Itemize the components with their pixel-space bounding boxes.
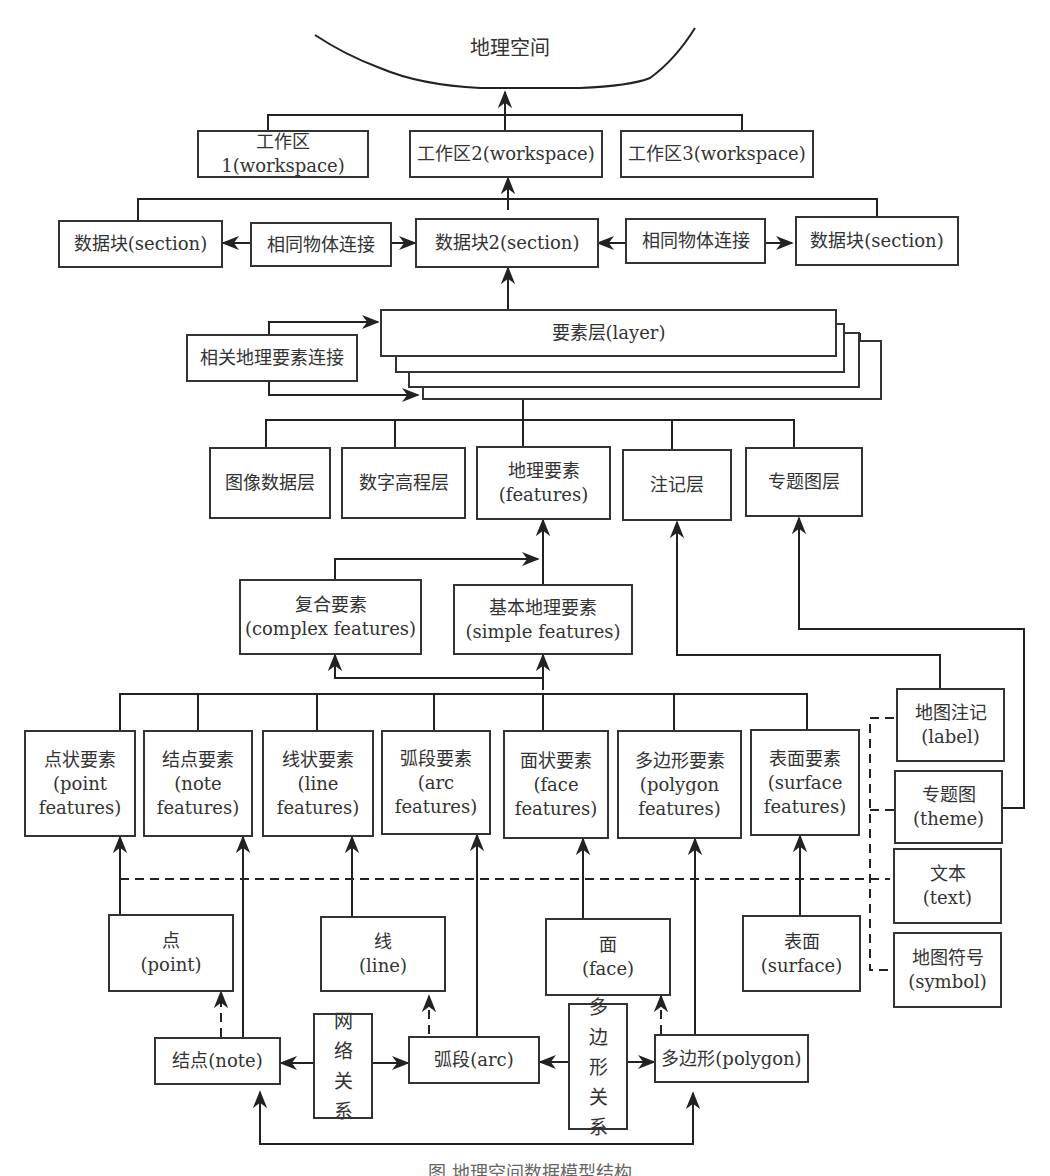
arc-features-cn: 弧段要素 (400, 747, 472, 771)
simple-features-label-cn: 基本地理要素 (489, 596, 597, 620)
workspace-2-label: 工作区2(workspace) (417, 142, 594, 166)
network-relation-char-2: 络 (334, 1036, 353, 1066)
polygon-relation-char-3: 形 (589, 1052, 608, 1082)
complex-features-box[interactable]: 复合要素 (complex features) (239, 579, 422, 655)
section-right-box[interactable]: 数据块(section) (795, 216, 959, 266)
network-relation-char-3: 关 (334, 1066, 353, 1096)
map-label-box[interactable]: 地图注记 (label) (896, 688, 1005, 762)
layer-box[interactable]: 要素层(layer) (380, 309, 837, 357)
section-left-label: 数据块(section) (74, 232, 207, 256)
map-symbol-box[interactable]: 地图符号 (symbol) (893, 932, 1002, 1008)
face-features-box[interactable]: 面状要素 (face features) (503, 730, 609, 839)
polygon-box[interactable]: 多边形(polygon) (654, 1034, 809, 1083)
text-en: (text) (923, 886, 972, 910)
face-features-cn: 面状要素 (520, 749, 592, 773)
map-symbol-cn: 地图符号 (912, 946, 984, 970)
workspace-1-label: 工作区1(workspace) (199, 130, 367, 178)
arc-box[interactable]: 弧段(arc) (408, 1036, 540, 1084)
same-object-link-right-label: 相同物体连接 (642, 229, 750, 253)
image-data-layer-box[interactable]: 图像数据层 (209, 447, 331, 519)
polygon-relation-box[interactable]: 多 边 形 关 系 (568, 1003, 628, 1130)
image-data-layer-label: 图像数据层 (225, 471, 315, 495)
layer-label: 要素层(layer) (552, 321, 666, 345)
text-box[interactable]: 文本 (text) (893, 848, 1002, 924)
map-label-en: (label) (921, 725, 979, 749)
surface-features-en1: (surface (768, 771, 843, 795)
point-box[interactable]: 点 (point) (108, 914, 234, 992)
line-cn: 线 (374, 930, 392, 954)
same-object-link-right-box[interactable]: 相同物体连接 (625, 218, 766, 264)
face-features-en1: (face (533, 773, 578, 797)
figure-caption: 图 地理空间数据模型结构 (330, 1158, 730, 1176)
geo-features-label-cn: 地理要素 (508, 459, 580, 483)
line-features-cn: 线状要素 (282, 748, 354, 772)
arc-features-en2: features) (395, 795, 477, 819)
point-features-en2: features) (39, 796, 121, 820)
section-right-label: 数据块(section) (810, 229, 943, 253)
polygon-features-en1: (polygon (640, 773, 719, 797)
map-label-cn: 地图注记 (915, 701, 987, 725)
face-en: (face) (582, 957, 634, 981)
geo-features-box[interactable]: 地理要素 (features) (476, 446, 611, 520)
map-symbol-en: (symbol) (908, 970, 987, 994)
surface-box[interactable]: 表面 (surface) (742, 915, 861, 992)
same-object-link-left-box[interactable]: 相同物体连接 (250, 222, 392, 267)
node-features-en1: (note (174, 772, 221, 796)
node-box[interactable]: 结点(note) (154, 1037, 281, 1085)
theme-cn: 专题图 (922, 783, 976, 807)
workspace-3-label: 工作区3(workspace) (628, 142, 805, 166)
section-center-box[interactable]: 数据块2(section) (415, 218, 599, 268)
arc-label: 弧段(arc) (434, 1048, 513, 1072)
polygon-relation-char-1: 多 (589, 992, 608, 1022)
annotation-layer-box[interactable]: 注记层 (622, 449, 732, 521)
polygon-relation-char-4: 关 (589, 1082, 608, 1112)
text-cn: 文本 (930, 862, 966, 886)
same-object-link-left-label: 相同物体连接 (267, 233, 375, 257)
surface-cn: 表面 (784, 930, 820, 954)
workspace-1-box[interactable]: 工作区1(workspace) (197, 130, 369, 178)
point-features-box[interactable]: 点状要素 (point features) (24, 730, 136, 837)
face-cn: 面 (599, 933, 617, 957)
theme-en: (theme) (913, 807, 984, 831)
arc-features-en1: (arc (418, 771, 454, 795)
face-features-en2: features) (515, 797, 597, 821)
network-relation-box[interactable]: 网 络 关 系 (313, 1013, 373, 1119)
simple-features-box[interactable]: 基本地理要素 (simple features) (453, 584, 633, 655)
polygon-features-en2: features) (638, 797, 720, 821)
point-features-en1: (point (53, 772, 107, 796)
network-relation-char-1: 网 (334, 1006, 353, 1036)
dem-layer-label: 数字高程层 (359, 471, 449, 495)
polygon-label: 多边形(polygon) (661, 1047, 801, 1071)
surface-en: (surface) (761, 954, 843, 978)
complex-features-label-cn: 复合要素 (295, 593, 367, 617)
node-features-en2: features) (157, 796, 239, 820)
section-left-box[interactable]: 数据块(section) (58, 220, 223, 268)
arc-features-box[interactable]: 弧段要素 (arc features) (381, 730, 491, 835)
polygon-features-cn: 多边形要素 (635, 749, 725, 773)
polygon-relation-char-5: 系 (589, 1112, 608, 1142)
polygon-relation-char-2: 边 (589, 1022, 608, 1052)
line-features-en1: (line (298, 772, 339, 796)
workspace-2-box[interactable]: 工作区2(workspace) (409, 130, 603, 178)
polygon-features-box[interactable]: 多边形要素 (polygon features) (617, 730, 742, 839)
line-box[interactable]: 线 (line) (320, 916, 446, 992)
line-features-box[interactable]: 线状要素 (line features) (262, 730, 374, 837)
related-feature-link-box[interactable]: 相关地理要素连接 (186, 334, 358, 382)
node-features-box[interactable]: 结点要素 (note features) (143, 730, 253, 837)
workspace-3-box[interactable]: 工作区3(workspace) (620, 130, 814, 178)
simple-features-label-en: (simple features) (465, 620, 620, 644)
dem-layer-box[interactable]: 数字高程层 (341, 447, 466, 519)
surface-features-cn: 表面要素 (769, 747, 841, 771)
node-label: 结点(note) (172, 1049, 262, 1073)
complex-features-label-en: (complex features) (245, 617, 416, 641)
geo-features-label-en: (features) (499, 483, 588, 507)
point-features-cn: 点状要素 (44, 748, 116, 772)
related-feature-link-label: 相关地理要素连接 (200, 346, 344, 370)
face-box[interactable]: 面 (face) (545, 918, 671, 996)
geographic-space-title: 地理空间 (410, 32, 610, 61)
theme-box[interactable]: 专题图 (theme) (894, 770, 1003, 844)
network-relation-char-4: 系 (334, 1096, 353, 1126)
surface-features-box[interactable]: 表面要素 (surface features) (750, 729, 860, 836)
thematic-layer-box[interactable]: 专题图层 (745, 447, 863, 517)
thematic-layer-label: 专题图层 (768, 470, 840, 494)
